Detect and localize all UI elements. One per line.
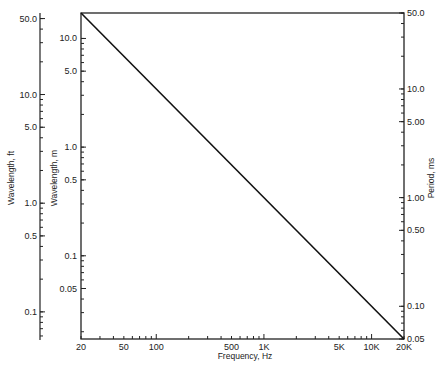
x-tick-label: 20	[76, 342, 86, 352]
m-tick-label: 0.1	[64, 251, 77, 261]
m-tick-label: 0.05	[59, 284, 77, 294]
m-tick-label: 10.0	[59, 33, 77, 43]
right-tick-label: 1.00	[407, 193, 425, 203]
right-axis-title: Period, ms	[426, 158, 436, 199]
m-tick-label: 1.0	[64, 142, 77, 152]
frequency-wavelength-chart: 50.010.05.01.00.50.1 10.05.01.00.50.10.0…	[0, 0, 443, 366]
ft-tick-label: 10.0	[19, 90, 37, 100]
ft-axis-title: Wavelength, ft	[6, 150, 16, 205]
x-tick-label: 50	[119, 342, 129, 352]
ft-tick-label: 50.0	[19, 14, 37, 24]
wavelength-ft-axis: 50.010.05.01.00.50.1	[19, 13, 45, 340]
wavelength-m-axis: 10.05.01.00.50.10.05	[59, 33, 86, 331]
ft-tick-label: 0.1	[24, 307, 37, 317]
right-tick-label: 0.10	[407, 301, 425, 311]
m-tick-label: 5.0	[64, 66, 77, 76]
frequency-axis: 20501005001K5K10K20K	[76, 334, 412, 352]
m-axis-title: Wavelength, m	[49, 150, 59, 206]
data-line	[81, 13, 404, 339]
ft-tick-label: 5.0	[24, 122, 37, 132]
right-tick-label: 50.0	[407, 8, 425, 18]
x-tick-label: 100	[149, 342, 164, 352]
ft-tick-label: 0.5	[24, 231, 37, 241]
x-tick-label: 20K	[396, 342, 412, 352]
x-axis-title: Frequency, Hz	[218, 351, 273, 361]
m-tick-label: 0.5	[64, 175, 77, 185]
right-tick-label: 0.50	[407, 225, 425, 235]
right-tick-label: 10.0	[407, 84, 425, 94]
period-ms-axis: 50.010.05.001.000.500.100.05	[399, 8, 425, 344]
x-tick-label: 10K	[364, 342, 380, 352]
ft-tick-label: 1.0	[24, 198, 37, 208]
right-tick-label: 5.00	[407, 117, 425, 127]
x-tick-label: 5K	[334, 342, 345, 352]
